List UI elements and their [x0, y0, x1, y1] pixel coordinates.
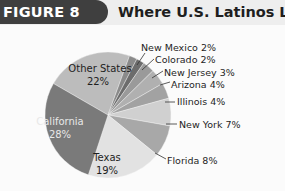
label-colorado: Colorado 2% [155, 54, 216, 65]
label-california-pct: 28% [49, 129, 71, 140]
label-new-york: New York 7% [179, 119, 241, 130]
label-texas-pct: 19% [96, 165, 118, 176]
label-other-states: Other States [68, 63, 131, 74]
label-other-states-pct: 22% [87, 76, 109, 87]
pie-chart: Other States 22% California 28% Texas 19… [0, 0, 285, 191]
label-new-jersey: New Jersey 3% [164, 67, 235, 78]
label-california: California [36, 116, 84, 127]
label-florida: Florida 8% [167, 155, 217, 166]
label-texas: Texas [92, 152, 121, 163]
label-new-mexico: New Mexico 2% [141, 42, 216, 53]
label-arizona: Arizona 4% [171, 79, 225, 90]
label-illinois: Illinois 4% [177, 96, 225, 107]
